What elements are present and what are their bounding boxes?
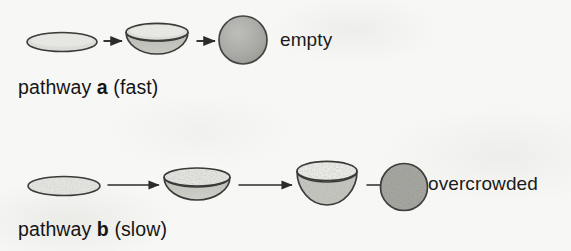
pathway-b-caption-letter: b [97,218,109,240]
pathway-b-caption-suffix: (slow) [109,218,167,240]
pathway-b-stage-shallow-bowl [162,167,232,201]
pathway-b-caption: pathway b (slow) [18,218,167,241]
pathway-b-stage-sphere [378,161,430,213]
pathway-b-outcome-label: overcrowded [428,173,538,195]
pathway-b-stage-deep-bowl [295,160,359,208]
pathway-b-caption-prefix: pathway [18,218,97,240]
pathway-b-row: overcrowded pathway b (slow) [0,0,571,251]
pathway-diagram: empty pathway a (fast) [0,0,571,251]
pathway-b-stage-flat-disc [25,173,103,199]
pathway-b-arrow-1 [107,180,167,190]
pathway-b-arrow-2 [238,180,300,190]
